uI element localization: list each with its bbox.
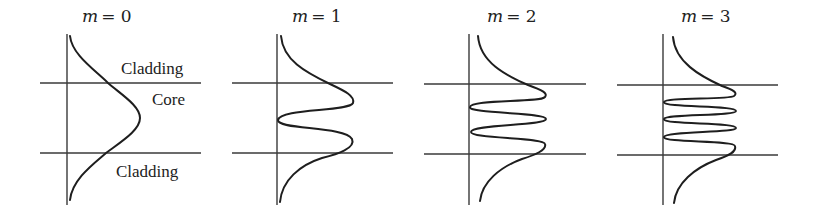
label-cladding-bottom: Cladding [116,162,179,181]
label-cladding-top: Cladding [121,59,184,78]
panel-mode-0: m= 0 Cladding Core Cladding [40,6,201,205]
mode-profile-curve [664,37,736,203]
mode-title-0: m= 0 [82,6,132,26]
mode-profile-curve [470,36,546,201]
mode-title-2: m= 2 [487,6,537,26]
mode-profile-curve [278,36,353,202]
waveguide-modes-figure: m= 0 Cladding Core Cladding m= 1 m= 2 m=… [0,0,814,217]
panel-mode-1: m= 1 [232,6,393,205]
panel-mode-2: m= 2 [424,6,586,205]
label-core: Core [152,90,185,109]
panel-mode-3: m= 3 [617,6,778,205]
mode-title-1: m= 1 [292,6,342,26]
mode-title-3: m= 3 [681,6,731,26]
